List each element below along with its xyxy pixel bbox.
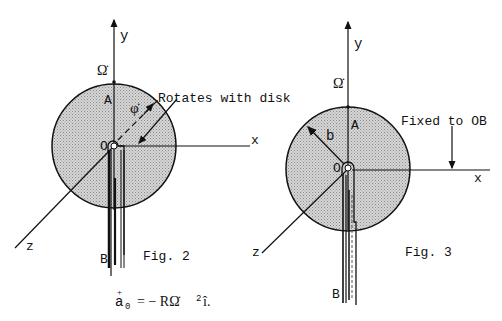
diagram-canvas: y Ω̇ A φ̇ Rotates with disk O x z B Fig.… <box>0 0 502 321</box>
eq-lhs-vector-arrow: + <box>117 287 122 297</box>
origin-label: O <box>100 139 108 154</box>
eq-unit-vector: î. <box>202 294 210 309</box>
point-b-label: B <box>100 252 108 267</box>
x-axis-label: x <box>251 133 259 148</box>
fig2-caption: Fig. 2 <box>143 249 190 264</box>
figure-2: y Ω̇ A φ̇ Rotates with disk O x z B Fig.… <box>15 20 291 312</box>
y-axis-label: y <box>120 28 128 44</box>
omega-dot-label: Ω̇ <box>333 76 344 91</box>
eq-rhs: = − RΩ̇ <box>137 294 181 309</box>
z-axis-label: z <box>26 239 34 254</box>
radius-b-label: b <box>326 128 334 144</box>
phi-dot-label: φ̇ <box>130 100 140 116</box>
acceleration-equation: a + 0 = − RΩ̇ 2 î. <box>115 287 210 312</box>
z-axis-label: z <box>252 245 260 260</box>
y-axis-label: y <box>354 36 362 52</box>
fixed-to-ob-label: Fixed to OB <box>401 114 487 129</box>
point-a-dot <box>346 105 350 109</box>
rotates-with-disk-label: Rotates with disk <box>158 91 291 106</box>
eq-lhs-sub: 0 <box>125 302 130 312</box>
fig3-caption: Fig. 3 <box>405 245 452 260</box>
eq-rhs-sup: 2 <box>196 294 201 304</box>
point-a-dot <box>112 80 116 84</box>
figure-3: y Ω̇ A b Fixed to OB O x z B Fig. 3 <box>252 22 490 305</box>
point-b-label: B <box>332 287 340 302</box>
point-a-label: A <box>351 118 359 133</box>
point-a-label: A <box>104 93 112 108</box>
omega-dot-label: Ω̇ <box>97 63 108 78</box>
origin-label: O <box>333 161 341 176</box>
x-axis-label: x <box>474 171 482 186</box>
